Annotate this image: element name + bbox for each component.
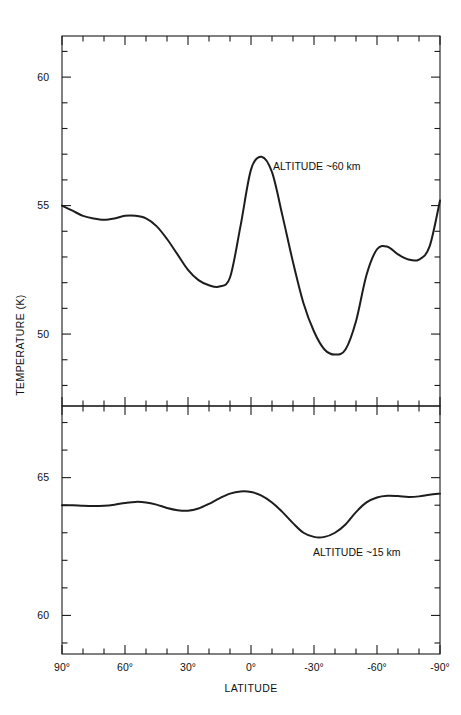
top-panel-frame <box>62 36 440 406</box>
x-tick-label: 30° <box>180 661 196 673</box>
bottom-panel-frame <box>62 406 440 654</box>
y-tick-label: 55 <box>37 199 49 211</box>
top-panel-tick-labels: 505560 <box>37 71 49 340</box>
bottom-panel-tick-labels: 6065 <box>37 471 49 621</box>
bottom-panel-ticks <box>62 406 440 654</box>
x-tick-label: 90° <box>54 661 70 673</box>
x-tick-label: -90° <box>430 661 449 673</box>
x-tick-label: 0° <box>246 661 256 673</box>
y-tick-label: 60 <box>37 71 49 83</box>
top-panel-ticks <box>62 36 440 406</box>
y-tick-label: 60 <box>37 609 49 621</box>
top-panel: 505560 ALTITUDE ~60 km <box>37 36 440 406</box>
y-tick-label: 65 <box>37 471 49 483</box>
y-axis-title: TEMPERATURE (K) <box>14 294 26 395</box>
y-tick-label: 50 <box>37 328 49 340</box>
x-tick-label: 60° <box>117 661 133 673</box>
figure-container: 505560 ALTITUDE ~60 km 6065 ALTITUDE ~15… <box>0 0 461 715</box>
bottom-panel: 6065 ALTITUDE ~15 km <box>37 406 440 654</box>
x-tick-label: -60° <box>367 661 386 673</box>
x-axis-tick-labels: 90°60°30°0°-30°-60°-90° <box>54 661 450 673</box>
bottom-panel-annotation: ALTITUDE ~15 km <box>313 546 401 558</box>
bottom-panel-data-curve <box>62 491 440 537</box>
x-tick-label: -30° <box>304 661 323 673</box>
top-panel-data-curve <box>62 157 440 355</box>
top-panel-annotation: ALTITUDE ~60 km <box>273 160 361 172</box>
x-axis-title: LATITUDE <box>224 682 277 694</box>
temperature-latitude-chart: 505560 ALTITUDE ~60 km 6065 ALTITUDE ~15… <box>0 0 461 715</box>
